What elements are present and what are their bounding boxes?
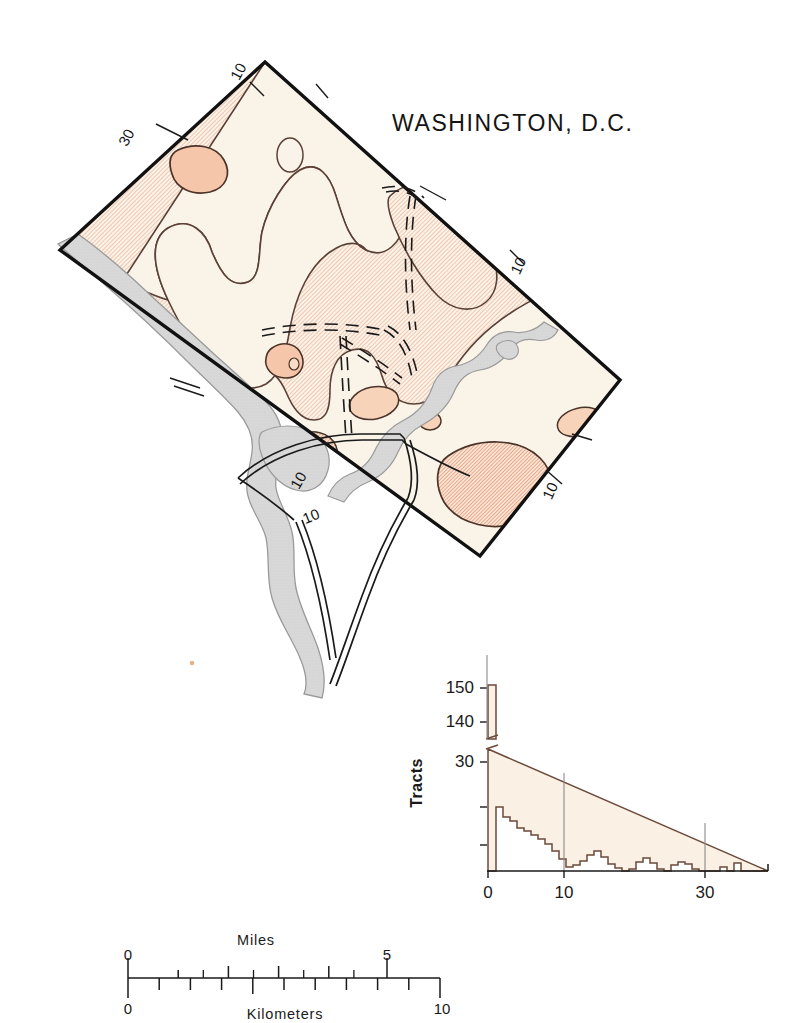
histogram-x-ticks xyxy=(488,871,705,878)
zone-anacostia-corridor xyxy=(310,503,388,670)
contour-label-1: 30 xyxy=(115,126,138,149)
histogram-xtick-10: 10 xyxy=(555,883,574,902)
stray-dot-artifact xyxy=(190,661,195,666)
map-svg: 10 30 10 10 10 10 xyxy=(0,0,811,700)
map-page: 10 30 10 10 10 10 WASHINGTON, D.C. Tract… xyxy=(0,0,811,1023)
scale-ticks-kilometers xyxy=(128,978,440,998)
contour-label-5: 10 xyxy=(539,480,561,502)
histogram-y-ticks xyxy=(480,688,487,845)
page-title: WASHINGTON, D.C. xyxy=(392,110,634,137)
zone-small-oval-north xyxy=(277,138,303,172)
contour-label-2: 10 xyxy=(507,255,529,277)
zone-over-30-southeast xyxy=(438,442,552,526)
leader-30-northwest xyxy=(156,124,188,140)
freeway-south-leg-2 xyxy=(336,500,414,686)
scale-kilometers-start: 0 xyxy=(124,1000,132,1017)
district-interior xyxy=(60,62,620,670)
histogram-ytick-140: 140 xyxy=(446,712,474,731)
scale-unit-kilometers: Kilometers xyxy=(247,1006,324,1020)
freeway-south-leg xyxy=(330,498,408,684)
histogram-inset: Tracts 150 140 30 xyxy=(408,655,778,915)
histogram-xtick-30: 30 xyxy=(696,883,715,902)
scale-kilometers-end: 10 xyxy=(434,1000,451,1017)
scale-unit-miles: Miles xyxy=(237,932,275,948)
zone-tiny-inner-center xyxy=(289,358,299,370)
scale-ticks-miles xyxy=(128,958,387,978)
scale-bar: Miles 0 5 xyxy=(110,928,460,1020)
zone-over-30-northwest xyxy=(170,146,228,193)
histogram-tall-bar-upper xyxy=(488,685,496,739)
leader-10-north-b xyxy=(316,84,328,98)
histogram-ytick-150: 150 xyxy=(446,678,474,697)
histogram-xtick-0: 0 xyxy=(483,883,492,902)
histogram-y-axis-label: Tracts xyxy=(408,758,425,808)
histogram-profile xyxy=(488,749,768,871)
histogram-ytick-30: 30 xyxy=(455,752,474,771)
histogram-svg: Tracts 150 140 30 xyxy=(408,655,778,915)
scale-bar-svg: Miles 0 5 xyxy=(110,928,460,1020)
washington-dc-map: 10 30 10 10 10 10 WASHINGTON, D.C. xyxy=(0,0,811,700)
